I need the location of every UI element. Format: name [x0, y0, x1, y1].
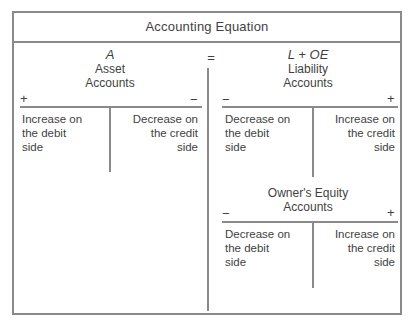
equity-name-line1: Owner's Equity [238, 186, 378, 200]
center-divider-line [207, 68, 209, 311]
title-separator-line [12, 41, 402, 43]
equals-sign: = [202, 50, 220, 65]
equity-minus-sign: − [222, 207, 230, 220]
asset-name-line1: Asset [30, 62, 190, 76]
liability-minus-sign: − [222, 93, 230, 106]
accounting-equation-figure: Accounting Equation = A Asset Accounts +… [0, 0, 419, 326]
figure-title: Accounting Equation [145, 19, 268, 34]
equity-debit-cell: Decrease on the debit side [225, 227, 310, 269]
equity-t-stem-line [312, 221, 314, 288]
asset-minus-sign: − [190, 93, 198, 106]
equity-plus-sign: + [387, 206, 395, 219]
equity-t-horizontal-line [222, 221, 398, 223]
equity-name-line2: Accounts [238, 200, 378, 214]
liability-name-line1: Liability [238, 62, 378, 76]
liability-name-line2: Accounts [238, 76, 378, 90]
asset-credit-cell: Decrease on the credit side [118, 112, 198, 154]
asset-debit-cell: Increase on the debit side [22, 112, 104, 154]
liability-credit-cell: Increase on the credit side [318, 112, 395, 154]
liability-t-horizontal-line [222, 106, 398, 108]
liability-account-header: L + OE Liability Accounts [238, 48, 378, 90]
asset-account-header: A Asset Accounts [30, 48, 190, 90]
liability-plus-sign: + [387, 92, 395, 105]
asset-name-line2: Accounts [30, 76, 190, 90]
liability-t-stem-line [312, 106, 314, 177]
liability-debit-cell: Decrease on the debit side [225, 112, 310, 154]
asset-symbol: A [30, 48, 190, 62]
equity-credit-cell: Increase on the credit side [318, 227, 395, 269]
figure-title-bar: Accounting Equation [12, 11, 402, 41]
liability-symbol: L + OE [238, 48, 378, 62]
equity-account-header: Owner's Equity Accounts [238, 186, 378, 214]
asset-t-stem-line [109, 106, 111, 172]
asset-t-horizontal-line [20, 106, 202, 108]
asset-plus-sign: + [20, 92, 28, 105]
